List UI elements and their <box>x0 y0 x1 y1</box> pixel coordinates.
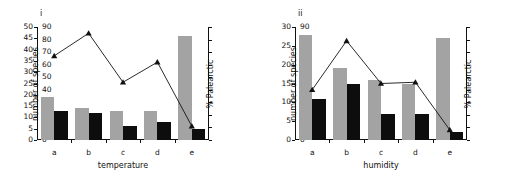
tick-x-ii <box>329 140 330 143</box>
x-tick-label-b-i: b <box>86 149 91 157</box>
x-tick-label-c-ii: c <box>379 149 383 157</box>
tick-label-left-i: 50 <box>13 23 33 31</box>
y-axis-title-right-i: % Palearctic <box>207 59 216 108</box>
plot-area-i: 05101520253035404550 0102030405060708090… <box>37 27 209 140</box>
x-tick-label-a-i: a <box>52 149 57 157</box>
x-tick-label-d-i: d <box>155 149 160 157</box>
tick-right-i <box>209 40 212 41</box>
tick-label-left-ii: 30 <box>271 23 291 31</box>
tick-label-left-i: 45 <box>13 35 33 43</box>
panel-label-i: i <box>40 9 42 18</box>
tick-x-ii <box>433 140 434 143</box>
palearctic-marker-a-i <box>51 53 57 58</box>
panel-label-ii: ii <box>298 9 302 18</box>
palearctic-marker-a-ii <box>309 87 315 92</box>
tick-x-i <box>106 140 107 143</box>
tick-right-i <box>209 115 212 116</box>
panel-i: i 05101520253035404550 01020304050607080… <box>0 0 258 180</box>
palearctic-line-i <box>37 27 209 140</box>
palearctic-marker-e-i <box>189 123 195 128</box>
x-tick-label-e-ii: e <box>447 149 452 157</box>
tick-right-i <box>209 27 212 28</box>
tick-x-i <box>175 140 176 143</box>
palearctic-line-ii <box>295 27 467 140</box>
plot-area-ii: 051015202530 0102030405060708090 abcde n… <box>295 27 467 140</box>
x-tick-label-e-i: e <box>189 149 194 157</box>
tick-label-left-i: 5 <box>13 125 33 133</box>
tick-label-left-ii: 0 <box>271 136 291 144</box>
tick-right-ii <box>467 115 470 116</box>
x-axis-title-ii: humidity <box>363 161 398 170</box>
palearctic-marker-d-ii <box>412 79 418 84</box>
x-tick-label-d-ii: d <box>413 149 418 157</box>
tick-right-ii <box>467 52 470 53</box>
x-axis-title-i: temperature <box>98 161 148 170</box>
x-tick-label-a-ii: a <box>310 149 315 157</box>
tick-right-i <box>209 140 212 141</box>
y-axis-title-right-ii: % Palearctic <box>465 59 474 108</box>
palearctic-marker-c-i <box>120 79 126 84</box>
tick-x-i <box>71 140 72 143</box>
tick-right-ii <box>467 140 470 141</box>
tick-right-i <box>209 127 212 128</box>
palearctic-marker-b-ii <box>344 38 350 43</box>
tick-right-ii <box>467 127 470 128</box>
tick-left-ii <box>292 140 295 141</box>
tick-x-ii <box>398 140 399 143</box>
tick-x-i <box>140 140 141 143</box>
panel-ii: ii 051015202530 0102030405060708090 abcd… <box>258 0 516 180</box>
tick-right-ii <box>467 27 470 28</box>
y-axis-title-left-ii: number of species <box>289 47 298 121</box>
tick-left-i <box>34 140 37 141</box>
tick-right-ii <box>467 40 470 41</box>
x-tick-label-c-i: c <box>121 149 125 157</box>
tick-label-left-i: 0 <box>13 136 33 144</box>
palearctic-marker-d-i <box>154 59 160 64</box>
x-tick-label-b-ii: b <box>344 149 349 157</box>
y-axis-title-left-i: number of species <box>31 47 40 121</box>
palearctic-marker-b-i <box>86 30 92 35</box>
tick-right-i <box>209 52 212 53</box>
figure-container: i 05101520253035404550 01020304050607080… <box>0 0 516 180</box>
tick-x-ii <box>364 140 365 143</box>
